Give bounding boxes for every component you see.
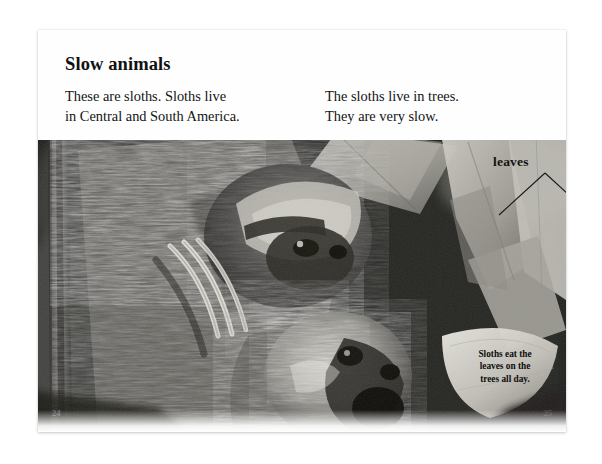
body-text-right: The sloths live in trees. They are very … bbox=[325, 86, 459, 126]
body-text-left: These are sloths. Sloths live in Central… bbox=[65, 86, 240, 126]
leaves-callout-label: leaves bbox=[493, 154, 566, 170]
leaves-callout: leaves bbox=[493, 154, 566, 223]
text-band: Slow animals These are sloths. Sloths li… bbox=[38, 30, 566, 140]
sloth-diet-caption: Sloths eat the leaves on the trees all d… bbox=[451, 348, 559, 385]
leaves-pointer-lines bbox=[493, 171, 566, 223]
page-title: Slow animals bbox=[65, 54, 171, 75]
photo-bottom-fade bbox=[38, 410, 566, 432]
sloth-photograph: leaves Sloths eat the leaves on the tree… bbox=[38, 140, 566, 432]
book-page-spread: leaves Sloths eat the leaves on the tree… bbox=[38, 30, 566, 432]
photograph-canvas bbox=[38, 140, 566, 432]
